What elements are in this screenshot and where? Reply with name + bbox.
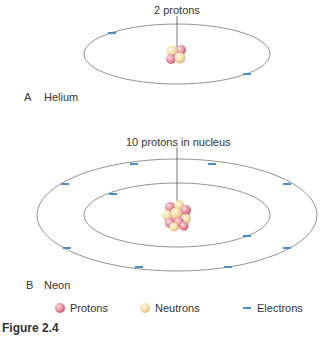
helium-nucleus [166,45,186,64]
panel-b-letter: B [26,279,33,291]
electron-icon [224,266,232,268]
electron-icon [109,193,117,195]
panel-a-name: Helium [44,91,78,103]
neon-nucleus [162,200,191,232]
electron-icon [61,183,69,185]
panel-a-letter: A [24,91,31,103]
legend-protons: Protons [70,302,108,314]
electron-icon [208,163,216,165]
neutron-sphere-icon [140,303,150,313]
neon-atom [37,147,317,271]
electron-icon [243,235,251,237]
electron-dash-icon [243,307,251,309]
electron-icon [135,266,143,268]
electron-icon [283,247,291,249]
electron-icon [130,163,138,165]
helium-atom [84,16,270,84]
helium-callout: 2 protons [154,4,200,16]
neon-callout: 10 protons in nucleus [126,136,231,148]
electron-icon [63,247,71,249]
legend-neutrons: Neutrons [155,302,200,314]
electron-icon [283,183,291,185]
figure-caption: Figure 2.4 [2,321,59,335]
proton-sphere-icon [55,303,65,313]
panel-b-name: Neon [44,279,70,291]
legend-electrons: Electrons [257,302,303,314]
electron-icon [108,32,116,34]
electron-icon [243,73,251,75]
